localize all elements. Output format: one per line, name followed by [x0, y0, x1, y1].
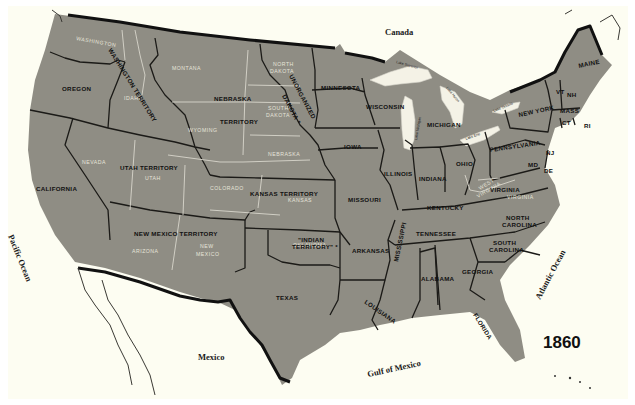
label-nj: NJ	[546, 149, 555, 156]
label-modern-virginia: VIRGINIA	[507, 194, 534, 200]
label-california: CALIFORNIA	[36, 185, 77, 192]
label-north-carolina-2: CAROLINA	[502, 221, 537, 228]
label-arkansas: ARKANSAS	[352, 247, 389, 254]
island	[554, 375, 556, 377]
label-indian-territory-2: TERRITORY" *	[292, 243, 338, 250]
us-map-1860: Canada Mexico Pacific Ocean Atlantic Oce…	[0, 0, 635, 405]
label-modern-north-dakota-1: NORTH	[273, 61, 294, 67]
island	[579, 381, 581, 383]
label-south-carolina-2: CAROLINA	[489, 246, 524, 253]
label-mexico: Mexico	[198, 352, 224, 362]
label-modern-south-dakota-1: SOUTH	[268, 105, 289, 111]
label-virginia: VIRGINIA	[490, 186, 520, 193]
label-modern-wyoming: WYOMING	[188, 127, 217, 133]
label-vt: VT	[556, 88, 565, 95]
label-iowa: IOWA	[344, 143, 362, 150]
label-missouri: MISSOURI	[348, 196, 381, 203]
label-michigan: MICHIGAN	[427, 121, 461, 128]
map-canvas: Canada Mexico Pacific Ocean Atlantic Oce…	[0, 0, 635, 405]
label-utah-territory: UTAH TERRITORY	[120, 164, 179, 171]
label-nebraska-territory-2: TERRITORY	[220, 118, 259, 125]
label-north-carolina-1: NORTH	[506, 214, 530, 221]
label-nh: NH	[567, 91, 577, 98]
island	[569, 377, 571, 379]
label-new-mexico-territory: NEW MEXICO TERRITORY	[134, 230, 218, 237]
label-modern-nevada: NEVADA	[82, 159, 106, 165]
label-ri: RI	[584, 122, 591, 129]
label-kansas-territory: KANSAS TERRITORY	[250, 190, 319, 197]
label-modern-south-dakota-2: DAKOTA	[266, 112, 290, 118]
label-ohio: OHIO	[456, 160, 473, 167]
label-kentucky: KENTUCKY	[427, 204, 464, 211]
label-nebraska-territory-1: NEBRASKA	[214, 95, 252, 102]
label-modern-arizona: ARIZONA	[132, 248, 159, 254]
label-modern-north-dakota-2: DAKOTA	[270, 68, 294, 74]
label-year: 1860	[543, 333, 581, 352]
label-modern-new-mexico-2: MEXICO	[196, 251, 219, 257]
label-minnesota: MINNESOTA	[321, 84, 361, 91]
label-wisconsin: WISCONSIN	[366, 103, 405, 110]
label-indian-territory-1: "INDIAN	[298, 236, 325, 243]
label-south-carolina-1: SOUTH	[493, 239, 516, 246]
label-illinois: ILLINOIS	[384, 170, 413, 177]
label-modern-nebraska: NEBRASKA	[268, 151, 300, 157]
label-canada: Canada	[385, 27, 414, 37]
label-md: MD	[528, 161, 538, 168]
label-tennessee: TENNESSEE	[416, 230, 456, 237]
label-georgia: GEORGIA	[462, 268, 494, 275]
label-ct: CT	[562, 119, 571, 126]
island	[589, 387, 591, 389]
label-modern-montana: MONTANA	[172, 65, 201, 71]
label-mass: MASS	[560, 107, 579, 114]
label-modern-new-mexico-1: NEW	[200, 243, 214, 249]
label-de: DE	[544, 167, 553, 174]
label-alabama: ALABAMA	[421, 275, 455, 282]
label-modern-kansas: KANSAS	[288, 197, 312, 203]
label-indiana: INDIANA	[419, 175, 447, 182]
label-modern-utah: UTAH	[145, 175, 161, 181]
label-oregon: OREGON	[62, 85, 92, 92]
label-modern-colorado: COLORADO	[210, 185, 244, 191]
label-texas: TEXAS	[276, 294, 298, 301]
